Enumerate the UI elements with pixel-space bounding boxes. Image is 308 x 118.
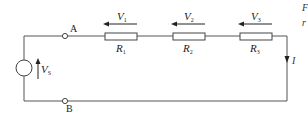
resistor-r2-icon <box>173 33 205 40</box>
r1-label: R1 <box>115 42 126 55</box>
v3-arrowhead-icon <box>238 22 244 27</box>
cropped-text-line1: F <box>301 2 308 13</box>
terminal-b-label: B <box>66 103 73 114</box>
resistor-r1: V1 R1 <box>103 10 137 55</box>
series-circuit-diagram: VS A B I V1 R1 V2 R2 V3 R3 <box>0 0 308 118</box>
voltage-source-icon <box>16 60 32 76</box>
v1-arrowhead-icon <box>103 22 109 27</box>
terminal-a-label: A <box>70 23 78 34</box>
resistor-r3-icon <box>240 33 272 40</box>
current-label: I <box>291 55 296 66</box>
v1-label: V1 <box>117 10 127 23</box>
resistor-r2: V2 R2 <box>171 10 205 55</box>
r3-label: R3 <box>249 42 260 55</box>
current-arrow-icon <box>285 56 290 63</box>
v2-arrowhead-icon <box>171 22 177 27</box>
resistor-r3: V3 R3 <box>238 10 272 55</box>
r2-label: R2 <box>182 42 193 55</box>
cropped-text-line2: r <box>302 17 306 28</box>
v2-label: V2 <box>184 10 194 23</box>
source-branch: VS <box>16 36 62 101</box>
vs-arrowhead-icon <box>36 58 41 64</box>
resistor-r1-icon <box>105 33 137 40</box>
vs-label: VS <box>41 63 51 76</box>
v3-label: V3 <box>251 10 261 23</box>
terminal-a-icon <box>62 33 67 38</box>
